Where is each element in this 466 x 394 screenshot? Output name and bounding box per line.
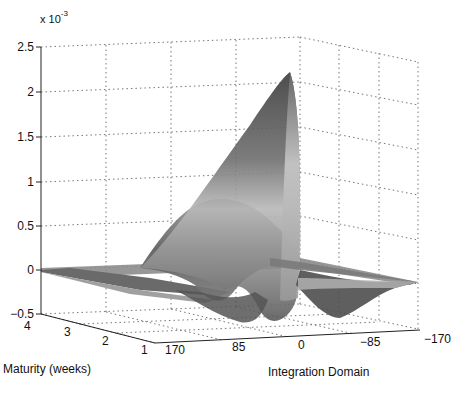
y-axis-title: Maturity (weeks) xyxy=(3,363,91,375)
z-tick-label: 0 xyxy=(0,264,34,276)
y-tick-label: 2 xyxy=(102,335,109,347)
z-tick-label: 2 xyxy=(0,86,34,98)
x-tick-label: 0 xyxy=(298,339,305,351)
y-tick-label: 1 xyxy=(141,344,148,356)
z-multiplier-base: x 10 xyxy=(40,13,61,25)
y-tick-label: 4 xyxy=(24,320,31,332)
z-multiplier-label: x 10-3 xyxy=(40,10,68,25)
x-tick-label: −170 xyxy=(424,333,451,345)
x-axis-title: Integration Domain xyxy=(268,366,369,378)
z-tick-label: 0.5 xyxy=(0,220,34,232)
z-tick-label: 1 xyxy=(0,176,34,188)
surface xyxy=(41,72,418,323)
z-tick-label: 2.5 xyxy=(0,41,34,53)
z-multiplier-exponent: -3 xyxy=(61,9,68,18)
y-axis-line xyxy=(41,314,155,343)
y-tick-label: 3 xyxy=(64,326,71,338)
x-tick-label: 170 xyxy=(165,344,185,356)
x-tick-label: 85 xyxy=(232,341,245,353)
z-tick-label: 1.5 xyxy=(0,131,34,143)
x-tick-label: −85 xyxy=(360,336,380,348)
